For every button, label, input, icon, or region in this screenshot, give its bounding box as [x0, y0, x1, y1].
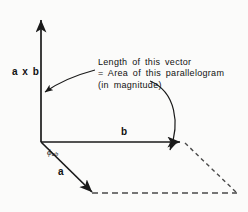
- angle-phi-ab-label: ϕab: [47, 147, 58, 158]
- vector-cross-product-diagram: a x b b a ϕab Length of this vector = Ar…: [0, 0, 248, 212]
- callout-arrow-to-parallelogram: [150, 81, 175, 150]
- vector-a-label: a: [58, 166, 64, 179]
- cross-product-label: a x b: [12, 66, 40, 79]
- parallelogram-dashed-sides: [92, 143, 237, 193]
- callout-arrow-to-cross-product: [45, 70, 95, 92]
- vector-b-label: b: [121, 126, 128, 139]
- annotation-text-block: Length of this vector = Area of this par…: [98, 57, 224, 91]
- annotation-line-2: = Area of this parallelogram: [98, 68, 224, 79]
- phi-subscript: ab: [52, 150, 59, 157]
- annotation-line-3: (in magnitude): [98, 80, 224, 91]
- diagram-canvas: [0, 0, 248, 212]
- annotation-line-1: Length of this vector: [98, 57, 224, 68]
